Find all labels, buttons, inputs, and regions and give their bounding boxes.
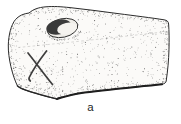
figure-panel: a	[0, 0, 181, 124]
figure-label: a	[0, 100, 181, 114]
